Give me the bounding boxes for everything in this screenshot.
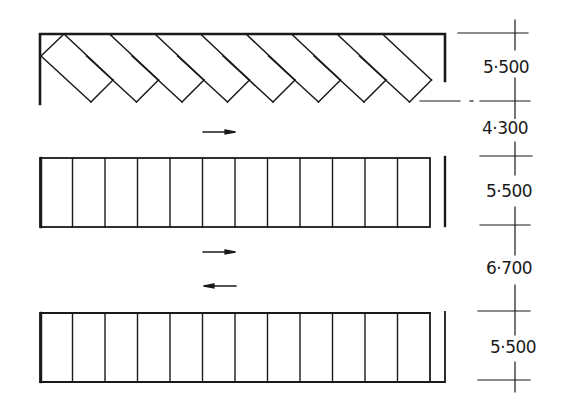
stall-line bbox=[41, 34, 64, 56]
stall-line bbox=[182, 80, 204, 102]
dimension-label-middle-row: 5·500 bbox=[485, 182, 533, 200]
stall-line bbox=[319, 80, 341, 102]
dimension-label-angled-row: 5·500 bbox=[482, 58, 530, 76]
stall-line bbox=[383, 34, 432, 80]
dimension-label-bottom-row: 5·500 bbox=[489, 338, 537, 356]
stall-line bbox=[87, 56, 137, 102]
stall-line bbox=[364, 80, 386, 102]
arrow-right-icon bbox=[203, 130, 235, 134]
stall-line bbox=[269, 56, 319, 102]
stall-line bbox=[178, 56, 228, 102]
aisle-arrows bbox=[203, 130, 236, 288]
stall-line bbox=[41, 56, 91, 102]
arrow-right-icon bbox=[203, 250, 235, 254]
middle-stall-row bbox=[40, 157, 445, 227]
stall-line bbox=[223, 56, 273, 102]
stall-line bbox=[137, 80, 159, 102]
stall-line bbox=[314, 56, 364, 102]
dimension-label-two-way-aisle: 6·700 bbox=[485, 259, 533, 277]
stall-line bbox=[228, 80, 250, 102]
stall-line bbox=[273, 80, 295, 102]
angled-stalls bbox=[41, 34, 432, 102]
bottom-stall-row bbox=[40, 312, 445, 382]
stall-line bbox=[360, 56, 410, 102]
stall-line bbox=[132, 56, 182, 102]
arrow-left-icon bbox=[204, 284, 236, 288]
stall-line bbox=[91, 80, 113, 102]
stall-line bbox=[410, 80, 432, 102]
dimension-label-one-way-aisle: 4·300 bbox=[481, 119, 529, 137]
